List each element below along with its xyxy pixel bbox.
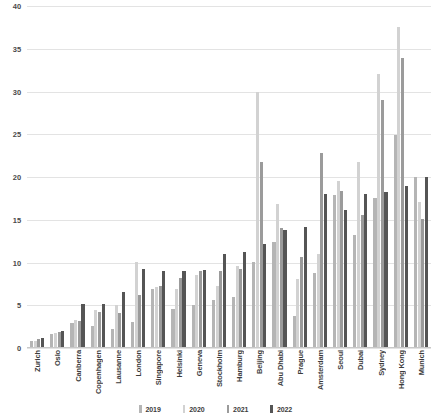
- bar: [78, 321, 81, 348]
- bar: [243, 252, 246, 348]
- legend-entry[interactable]: 2019: [139, 405, 161, 413]
- bar-group: [232, 6, 246, 348]
- bar: [263, 244, 266, 348]
- bar: [256, 92, 259, 349]
- x-tick-label: Abu Dhabi: [276, 350, 285, 386]
- bar: [199, 271, 202, 348]
- bar-group: [313, 6, 327, 348]
- bar: [373, 198, 376, 348]
- x-tick-label: Munich: [417, 350, 426, 375]
- bar: [425, 177, 428, 348]
- bar: [171, 309, 174, 348]
- bar: [219, 271, 222, 348]
- bar: [102, 304, 105, 348]
- bar-group: [111, 6, 125, 348]
- x-tick-label: Prague: [296, 350, 305, 375]
- x-tick-label: Geneva: [195, 350, 204, 376]
- bar: [280, 228, 283, 348]
- bar: [192, 305, 195, 348]
- bar-group: [131, 6, 145, 348]
- y-tick-label: 25: [13, 130, 21, 139]
- bar-group: [30, 6, 44, 348]
- bar: [320, 153, 323, 348]
- bar: [81, 304, 84, 348]
- bar: [216, 286, 219, 348]
- bar: [397, 27, 400, 348]
- axis-baseline: [27, 347, 431, 348]
- bar-group: [192, 6, 206, 348]
- bar: [232, 297, 235, 348]
- bar: [131, 322, 134, 348]
- legend-entry[interactable]: 2022: [270, 405, 292, 413]
- x-axis: ZurichOsloCanberraCopenhagenLausanneLond…: [27, 350, 431, 398]
- bar-group: [333, 6, 347, 348]
- x-tick-label: Canberra: [74, 350, 83, 382]
- y-tick-label: 0: [17, 344, 21, 353]
- x-tick-label: Singapore: [154, 350, 163, 385]
- bar: [260, 162, 263, 348]
- x-tick-label: Stockholm: [215, 350, 224, 387]
- x-tick-label: Hong Kong: [397, 350, 406, 389]
- bar-group: [414, 6, 428, 348]
- bar-group: [151, 6, 165, 348]
- bar: [252, 262, 255, 348]
- bar-group: [171, 6, 185, 348]
- x-tick-label: Copenhagen: [94, 350, 103, 394]
- bar: [155, 287, 158, 348]
- legend-label: 2021: [233, 406, 248, 413]
- bar: [159, 286, 162, 348]
- legend-entry[interactable]: 2020: [183, 405, 205, 413]
- bar: [58, 332, 61, 348]
- bar-group: [353, 6, 367, 348]
- legend-label: 2019: [146, 406, 161, 413]
- bar: [293, 316, 296, 348]
- bar: [313, 273, 316, 348]
- bar-group: [50, 6, 64, 348]
- x-tick-label: London: [134, 350, 143, 377]
- bar: [405, 186, 408, 348]
- x-tick-label: Amsterdam: [316, 350, 325, 390]
- x-tick-label: Hamburg: [235, 350, 244, 382]
- x-tick-label: Helsinki: [175, 350, 184, 378]
- legend-entry[interactable]: 2021: [227, 405, 249, 413]
- y-tick-label: 35: [13, 44, 21, 53]
- bar: [384, 192, 387, 348]
- bar: [304, 227, 307, 348]
- bar: [401, 58, 404, 348]
- gridline-0: [27, 348, 431, 349]
- bar-group: [252, 6, 266, 348]
- bar: [361, 215, 364, 348]
- bar: [138, 295, 141, 348]
- x-tick-label: Zurich: [33, 350, 42, 372]
- x-tick-label: Sydney: [377, 350, 386, 376]
- bar: [162, 271, 165, 348]
- y-tick-label: 30: [13, 87, 21, 96]
- y-axis: 0510152025303540: [0, 6, 25, 348]
- bar: [236, 266, 239, 348]
- bar: [333, 195, 336, 348]
- bar: [364, 194, 367, 348]
- bar-group: [394, 6, 408, 348]
- bar: [421, 219, 424, 348]
- bar: [94, 310, 97, 348]
- bar: [91, 326, 94, 348]
- bar: [414, 177, 417, 348]
- y-tick-label: 20: [13, 173, 21, 182]
- bars-layer: [27, 6, 431, 348]
- bar: [239, 269, 242, 349]
- bar: [50, 334, 53, 348]
- y-tick-label: 10: [13, 258, 21, 267]
- bar: [70, 323, 73, 348]
- bar-group: [293, 6, 307, 348]
- bar: [272, 242, 275, 348]
- bar: [340, 191, 343, 348]
- bar: [357, 162, 360, 348]
- x-tick-label: Seoul: [336, 350, 345, 370]
- bar: [182, 271, 185, 348]
- legend-label: 2022: [277, 406, 292, 413]
- bar: [54, 333, 57, 348]
- x-tick-label: Dubai: [356, 350, 365, 370]
- bar: [115, 305, 118, 348]
- bar: [317, 254, 320, 348]
- bar-group: [373, 6, 387, 348]
